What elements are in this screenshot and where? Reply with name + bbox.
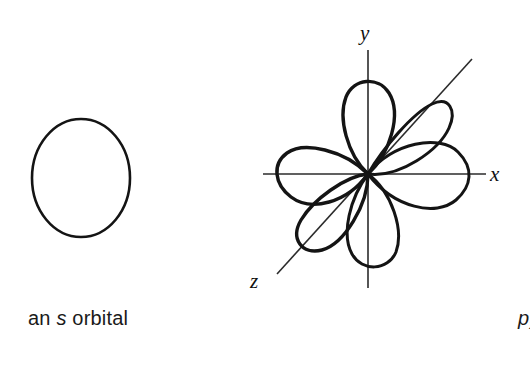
- s-caption-symbol: s: [56, 307, 66, 329]
- z-axis-label: z: [249, 269, 258, 293]
- p-orbital-panel: y x z px,py,pz orbitals: [230, 0, 530, 369]
- x-axis-label: x: [489, 162, 500, 186]
- s-orbital-circle: [32, 119, 130, 237]
- p-orbital-drawing: y x z: [230, 0, 530, 300]
- s-orbital-panel: an s orbital: [0, 0, 230, 369]
- p-caption-px: p: [518, 307, 529, 329]
- s-orbital-caption: an s orbital: [28, 307, 128, 330]
- orbital-figure: an s orbital: [0, 0, 530, 369]
- p-orbital-caption: px,py,pz orbitals: [518, 307, 530, 332]
- s-orbital-drawing: [0, 0, 230, 300]
- s-caption-suffix: orbital: [67, 307, 129, 329]
- s-caption-prefix: an: [28, 307, 56, 329]
- y-axis-label: y: [358, 21, 370, 45]
- pz-negative-lobe: [368, 102, 452, 175]
